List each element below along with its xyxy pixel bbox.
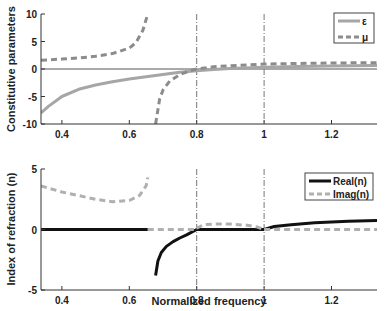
x-tick-label: 0.4 [55,295,69,306]
legend-label: ε [362,16,367,27]
legend: Real(n)Imag(n) [305,173,373,200]
y-axis-label: Constitutive parameters [5,6,17,132]
x-tick-label: 0.6 [122,295,136,306]
y-tick-label: -10 [23,119,38,130]
figure: 0.40.60.811.2-10-50510 Constitutive para… [0,0,387,311]
x-tick-label: 1.2 [325,295,339,306]
y-tick-label: 0 [31,225,37,236]
y-tick-label: -5 [28,92,37,103]
legend-label: Real(n) [333,176,367,187]
constitutive-parameters-plot: 0.40.60.811.2-10-50510 Constitutive para… [5,6,377,140]
series-line [41,178,148,202]
x-tick-label: 0.6 [122,129,136,140]
x-tick-label: 0.4 [55,129,69,140]
plot-lines [41,14,377,124]
legend-label: Imag(n) [333,189,369,200]
series-line [41,14,148,60]
y-tick-label: 10 [26,9,38,20]
x-tick-label: 1 [261,129,267,140]
y-tick-label: 5 [31,37,37,48]
y-tick-label: 5 [31,164,37,175]
index-of-refraction-plot: 0.40.60.811.2-505 Index of refraction (n… [5,164,377,306]
x-tick-label: 0.8 [190,129,204,140]
series-line [41,65,377,113]
series-line [156,230,197,276]
tick-labels: 0.40.60.811.2-10-50510 [23,9,339,140]
y-tick-label: 0 [31,64,37,75]
y-tick-label: -5 [28,285,37,296]
y-axis-label: Index of refraction (n) [5,172,17,285]
legend-label: μ [362,32,368,43]
x-axis-label: Normalized frequency [152,295,268,307]
x-tick-label: 1.2 [325,129,339,140]
legend: εμ [334,13,374,43]
